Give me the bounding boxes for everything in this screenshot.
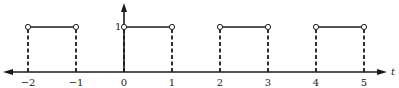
open-circle-marker — [25, 24, 30, 29]
open-circle-marker — [361, 24, 366, 29]
pulse-series — [25, 24, 366, 72]
open-circle-marker — [169, 24, 174, 29]
x-tick-label: −1 — [69, 77, 84, 88]
x-tick-label: 0 — [121, 77, 127, 88]
open-circle-marker — [313, 24, 318, 29]
open-circle-marker — [121, 24, 126, 29]
open-circle-marker — [265, 24, 270, 29]
x-tick-label: 5 — [361, 77, 367, 88]
x-tick-label: 3 — [265, 77, 271, 88]
arrow-right-icon — [377, 69, 387, 75]
y-tick-label: 1 — [115, 21, 121, 32]
x-tick-label: 1 — [169, 77, 175, 88]
arrow-up-icon — [121, 3, 127, 12]
x-axis-label: t — [391, 66, 396, 77]
open-circle-marker — [73, 24, 78, 29]
x-tick-label: 4 — [313, 77, 319, 88]
x-tick-label: −2 — [21, 77, 36, 88]
arrow-left-icon — [3, 69, 13, 75]
square-wave-plot: −2−1012345 1 t — [0, 0, 399, 88]
x-tick-label: 2 — [217, 77, 223, 88]
x-axis — [3, 69, 387, 75]
x-tick-labels: −2−1012345 — [21, 77, 368, 88]
open-circle-marker — [217, 24, 222, 29]
